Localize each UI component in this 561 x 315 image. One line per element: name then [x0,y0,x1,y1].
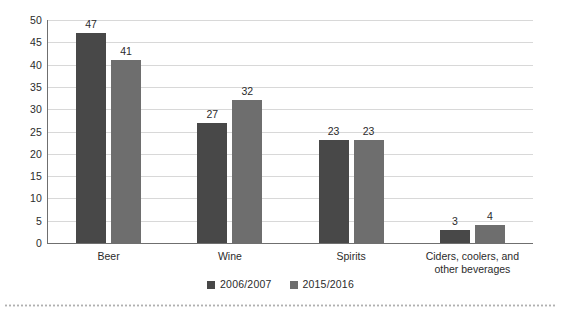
bar-chart: 50454035302520151050 47412732232334 Beer… [0,0,561,315]
legend-item[interactable]: 2006/2007 [207,279,271,290]
y-axis-tick-label: 40 [8,60,42,70]
y-axis-tick-label: 35 [8,82,42,92]
bar[interactable]: 41 [111,60,141,243]
bar-value-label: 4 [487,211,493,222]
chart-legend: 2006/20072015/2016 [0,279,561,290]
x-axis-category-label: Ciders, coolers, and other beverages [412,250,533,276]
bar-value-label: 27 [207,109,219,120]
bar-group: 2732 [197,20,262,243]
bar-value-label: 41 [120,46,132,57]
bar-group: 4741 [76,20,141,243]
y-axis-tick-label: 45 [8,37,42,47]
bar-value-label: 32 [242,86,254,97]
bar[interactable]: 23 [319,140,349,243]
bar-group: 2323 [319,20,384,243]
x-axis-category-label: Wine [169,250,290,263]
axis-baseline [48,243,533,244]
y-axis-tick-label: 20 [8,149,42,159]
bar[interactable]: 27 [197,123,227,243]
y-axis-tick-label: 25 [8,127,42,137]
bar-value-label: 23 [363,126,375,137]
bar[interactable]: 4 [475,225,505,243]
y-axis-tick-label: 10 [8,193,42,203]
bar-value-label: 47 [85,19,97,30]
plot-area: 47412732232334 [48,20,533,243]
y-axis-tick-label: 30 [8,104,42,114]
legend-item[interactable]: 2015/2016 [290,279,354,290]
bottom-dotted-rule [4,304,557,307]
x-axis-category-label: Spirits [291,250,412,263]
legend-swatch-icon [290,281,298,289]
x-axis-category-label: Beer [48,250,169,263]
bar[interactable]: 47 [76,33,106,243]
y-axis-tick-label: 15 [8,171,42,181]
y-axis-tick-label: 0 [8,238,42,248]
legend-item-label: 2015/2016 [303,279,354,290]
bar[interactable]: 3 [440,230,470,243]
y-axis-tick-label: 5 [8,216,42,226]
bar-group: 34 [440,20,505,243]
y-axis-tick-labels: 50454035302520151050 [0,20,42,243]
bar-value-label: 3 [452,216,458,227]
bar[interactable]: 32 [232,100,262,243]
y-axis-tick-label: 50 [8,15,42,25]
bar[interactable]: 23 [354,140,384,243]
legend-swatch-icon [207,281,215,289]
legend-item-label: 2006/2007 [220,279,271,290]
bar-value-label: 23 [328,126,340,137]
